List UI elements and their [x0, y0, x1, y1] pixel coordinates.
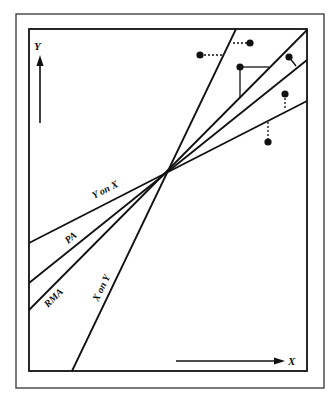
line-y-on-x — [29, 101, 307, 243]
line-rma — [29, 30, 307, 310]
regression-lines-diagram: Y X Y on X PA RMA X on Y — [0, 0, 333, 397]
y-axis-arrow — [37, 55, 44, 123]
point-3 — [236, 63, 269, 97]
point-5 — [281, 90, 288, 108]
y-axis-label: Y — [34, 40, 42, 52]
line-x-on-y — [72, 29, 236, 371]
label-y-on-x: Y on X — [90, 178, 120, 201]
outer-frame — [16, 14, 324, 388]
label-x-on-y: X on Y — [89, 272, 112, 304]
plot-frame — [29, 29, 307, 371]
label-rma: RMA — [41, 286, 65, 310]
point-6 — [264, 122, 271, 146]
x-axis-label: X — [287, 355, 296, 367]
point-1 — [196, 51, 222, 58]
x-axis-arrow — [176, 358, 285, 365]
label-pa: PA — [62, 229, 79, 245]
point-4 — [285, 53, 296, 66]
point-2 — [233, 39, 254, 46]
